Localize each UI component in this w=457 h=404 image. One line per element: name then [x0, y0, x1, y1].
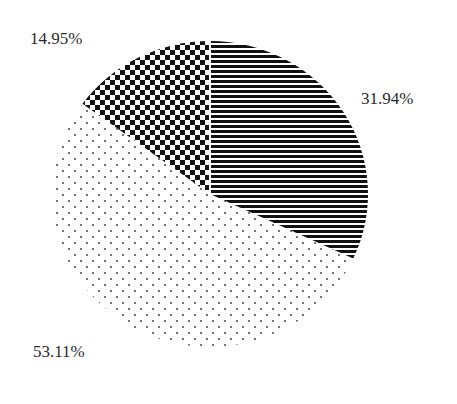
slice-label-14-95: 14.95% — [30, 29, 82, 49]
slice-label-31-94: 31.94% — [361, 89, 413, 109]
slice-label-53-11: 53.11% — [33, 342, 85, 362]
